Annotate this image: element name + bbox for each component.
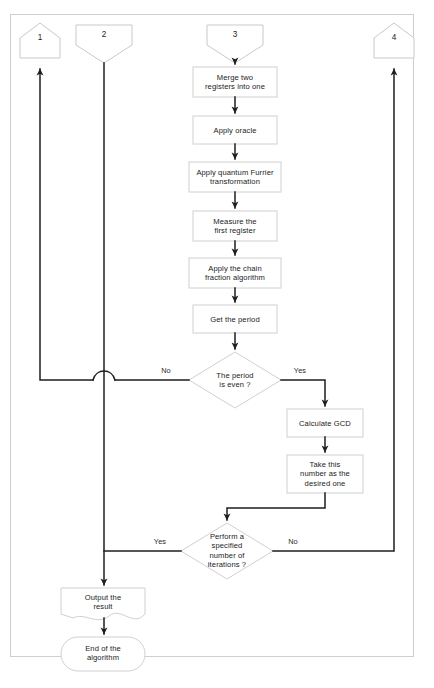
node-merge-registers-shape — [193, 67, 277, 97]
edge-decision-yes-to-gcd — [281, 380, 325, 406]
node-get-period-shape — [193, 305, 277, 333]
decision-iterations-shape — [181, 523, 273, 579]
flowchart-canvas: 1 2 3 4 Merge two registers into one App… — [0, 0, 434, 688]
node-output-result-shape — [61, 588, 145, 620]
node-apply-qft-shape — [189, 162, 281, 192]
connector-3-shape — [207, 25, 263, 63]
node-measure-register-shape — [193, 211, 277, 241]
node-calculate-gcd-shape — [287, 409, 363, 437]
connector-2-shape — [76, 25, 132, 63]
decision-period-even-shape — [189, 352, 281, 408]
edge-decision-no-to-connector1 — [40, 69, 189, 380]
node-take-number-shape — [287, 455, 363, 493]
node-apply-oracle-shape — [193, 116, 277, 144]
edge-take-number-to-iterations — [227, 493, 325, 520]
connector-1-shape — [20, 23, 60, 58]
node-end-algorithm-shape — [61, 637, 145, 671]
node-chain-fraction-shape — [189, 258, 281, 288]
connector-4-shape — [374, 23, 414, 58]
flowchart-graphics — [0, 0, 434, 688]
